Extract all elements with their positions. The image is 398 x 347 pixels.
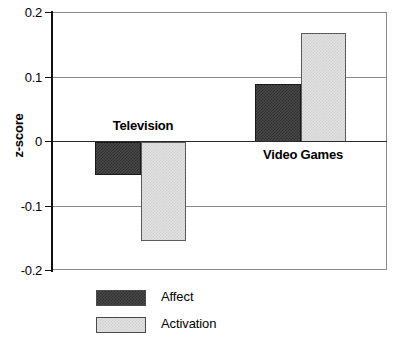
- y-tick-mark-neg0.2: [45, 270, 53, 271]
- bar-video-games-affect: [255, 84, 301, 142]
- chart-figure: z-score 0.2 0.1 0 -0.1 -0.2 Television V…: [0, 0, 398, 347]
- bar-television-activation: [141, 142, 186, 241]
- legend-swatch-activation: [96, 317, 146, 333]
- chart-legend: Affect Activation: [96, 288, 336, 342]
- group-label-video-games: Video Games: [238, 147, 368, 162]
- bar-television-affect: [95, 142, 141, 175]
- bar-video-games-activation: [301, 33, 346, 142]
- y-tick-label-0.2: 0.2: [0, 6, 42, 19]
- y-tick-label-0: 0: [0, 135, 42, 148]
- y-tick-label-neg0.2: -0.2: [0, 264, 42, 277]
- y-tick-mark-0.1: [45, 77, 53, 78]
- y-tick-mark-neg0.1: [45, 206, 53, 207]
- y-tick-label-neg0.1: -0.1: [0, 200, 42, 213]
- zero-baseline: [53, 141, 387, 142]
- legend-item-activation: Activation: [96, 315, 336, 342]
- legend-label-activation: Activation: [161, 316, 216, 331]
- legend-swatch-affect: [96, 290, 146, 306]
- legend-item-affect: Affect: [96, 288, 336, 315]
- group-label-television: Television: [88, 118, 198, 133]
- legend-label-affect: Affect: [161, 289, 193, 304]
- y-tick-label-0.1: 0.1: [0, 71, 42, 84]
- y-tick-mark-0.2: [45, 12, 53, 13]
- gridline-neg0.1: [53, 206, 387, 207]
- y-tick-mark-0: [45, 141, 53, 142]
